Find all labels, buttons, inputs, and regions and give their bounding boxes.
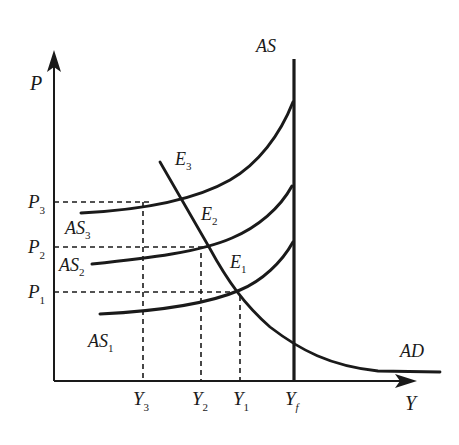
- labels: P Y AS AD AS3 AS2 AS1 E3 E2 E1 P3 P2: [27, 36, 424, 414]
- e1-label: E1: [229, 252, 247, 275]
- as-vertical-label: AS: [255, 36, 276, 56]
- y1-label: Y1: [233, 388, 249, 413]
- yf-label: Yf: [285, 388, 301, 413]
- as3-label: AS3: [64, 218, 91, 241]
- e3-label: E3: [174, 149, 192, 172]
- x-axis-label: Y: [405, 392, 418, 414]
- y3-label: Y3: [133, 388, 150, 413]
- as2-label: AS2: [58, 255, 85, 278]
- as2-curve: [92, 186, 292, 264]
- as1-label: AS1: [87, 331, 114, 354]
- as3-curve: [81, 102, 293, 213]
- p2-label: P2: [27, 236, 45, 261]
- e2-label: E2: [200, 204, 218, 227]
- p3-label: P3: [27, 191, 46, 216]
- ad-label: AD: [399, 341, 424, 361]
- y2-label: Y2: [192, 388, 208, 413]
- p1-label: P1: [27, 281, 45, 306]
- as1-curve: [100, 242, 293, 314]
- as-ad-diagram: P Y AS AD AS3 AS2 AS1 E3 E2 E1 P3 P2: [0, 0, 459, 445]
- y-axis-label: P: [29, 72, 42, 94]
